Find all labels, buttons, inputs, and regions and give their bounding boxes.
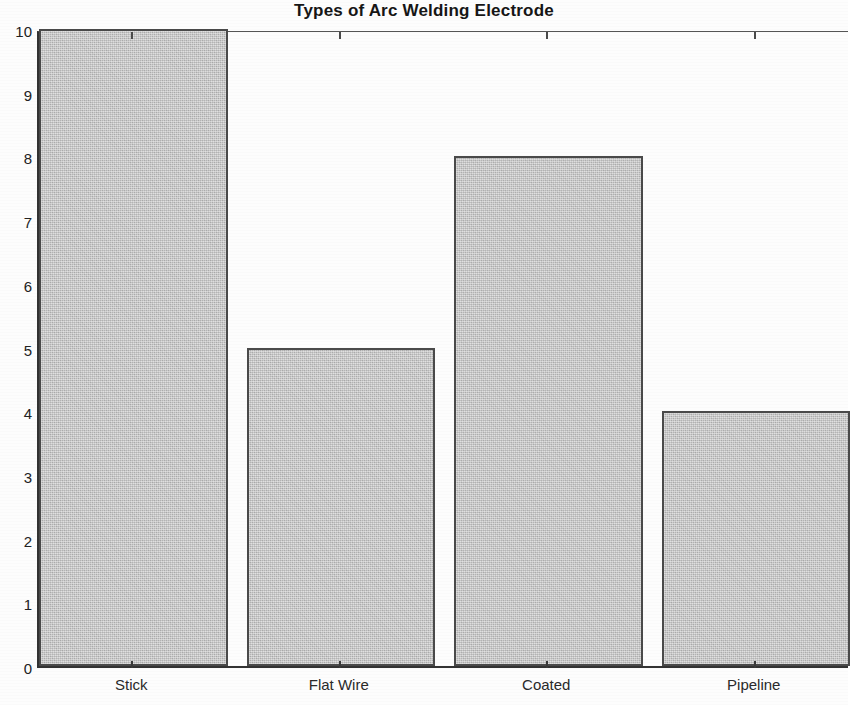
y-axis-tick-label: 1 <box>4 596 32 613</box>
y-axis-tick-label: 10 <box>4 23 32 40</box>
x-axis-tick-label: Coated <box>522 676 570 693</box>
y-axis-tick-label: 8 <box>4 150 32 167</box>
y-axis-tick-label: 4 <box>4 405 32 422</box>
x-axis-tick-mark-bottom <box>754 661 756 668</box>
y-axis-tick-label: 0 <box>4 660 32 677</box>
x-axis-tick-label: Pipeline <box>727 676 780 693</box>
x-axis-tick-marks-bottom <box>37 31 848 668</box>
y-axis-tick-label: 3 <box>4 468 32 485</box>
y-axis-tick-label: 9 <box>4 86 32 103</box>
x-axis-tick-mark-bottom <box>131 661 133 668</box>
y-axis-tick-label: 6 <box>4 277 32 294</box>
chart-title: Types of Arc Welding Electrode <box>0 1 848 21</box>
x-axis-tick-mark-bottom <box>546 661 548 668</box>
x-axis-tick-label: Flat Wire <box>309 676 369 693</box>
y-axis-tick-labels: 012345678910 <box>0 31 32 668</box>
x-axis-tick-label: Stick <box>115 676 148 693</box>
x-axis-tick-labels: StickFlat WireCoatedPipeline <box>37 676 848 702</box>
y-axis-tick-label: 5 <box>4 341 32 358</box>
x-axis-tick-mark-bottom <box>339 661 341 668</box>
y-axis-tick-label: 7 <box>4 214 32 231</box>
y-axis-tick-label: 2 <box>4 532 32 549</box>
